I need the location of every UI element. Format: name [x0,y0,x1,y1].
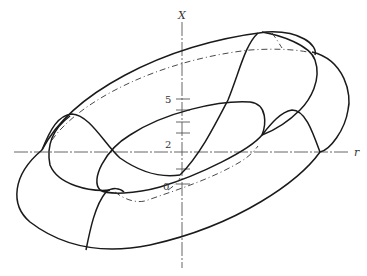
tick-label-2: 2 [165,139,171,150]
tick-label-5: 5 [165,94,171,105]
diagram-figure: X r 5 2 0 [0,0,367,276]
torus-surface [17,32,349,250]
outer-rim-top [42,32,315,150]
torus-diagram: X r 5 2 0 [0,0,367,276]
front-left-curve [86,189,124,250]
inner-wall-left [49,116,110,190]
r-axis-label: r [354,146,360,159]
x-axis-label: X [177,9,187,22]
inner-hole [97,102,265,193]
outer-rim-right-bottom [17,52,349,249]
cross-section-curve-3 [262,32,317,135]
tick-label-0: 0 [163,181,169,192]
axes [14,22,350,268]
